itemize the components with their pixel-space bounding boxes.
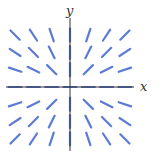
slope-segment: [47, 65, 56, 74]
slope-segment: [47, 100, 56, 109]
slope-segment: [101, 101, 113, 107]
slope-segment: [119, 102, 131, 106]
slope-segment: [84, 100, 93, 109]
slope-segment: [28, 67, 40, 73]
slope-segment: [102, 117, 111, 126]
slope-segment: [84, 65, 93, 74]
slope-segment: [9, 102, 21, 106]
slope-segment: [11, 31, 20, 40]
slope-segment: [85, 47, 91, 59]
slope-segment: [86, 29, 90, 41]
slope-segment: [119, 68, 131, 72]
slope-segment: [103, 134, 110, 145]
slope-segment: [50, 29, 54, 41]
slope-segment: [120, 49, 131, 56]
slope-field-diagram: y x: [0, 0, 160, 155]
slope-segment: [29, 117, 38, 126]
slope-segment: [102, 48, 111, 57]
slope-segment: [28, 101, 40, 107]
slope-segment: [101, 67, 113, 73]
slope-segment: [49, 47, 55, 59]
slope-segment: [120, 134, 129, 143]
slope-segment: [29, 48, 38, 57]
x-axis-label: x: [140, 79, 148, 94]
slope-segment: [30, 134, 37, 145]
slope-segment: [103, 30, 110, 41]
slope-segment: [9, 68, 21, 72]
slope-segment: [30, 30, 37, 41]
y-axis-label: y: [65, 3, 74, 18]
slope-segment: [11, 134, 20, 143]
slope-segment: [10, 49, 21, 56]
slope-segment: [86, 133, 90, 145]
slope-segment: [10, 118, 21, 125]
slope-segment: [49, 116, 55, 128]
slope-segment: [50, 133, 54, 145]
slope-segment: [85, 116, 91, 128]
slope-segment: [120, 31, 129, 40]
slope-segment: [120, 118, 131, 125]
